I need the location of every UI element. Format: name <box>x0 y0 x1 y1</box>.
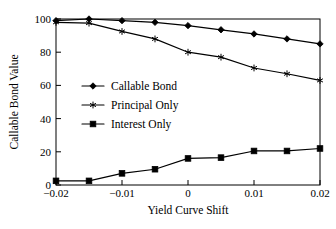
y-tick-label-60: 60 <box>40 79 52 91</box>
x-tick-label-001: 0.01 <box>244 187 263 199</box>
chart-figure: 0 20 40 60 80 100 −0.02 −0.01 0 0.01 0.0… <box>0 0 336 229</box>
legend-label: Principal Only <box>111 99 179 112</box>
legend-label: Callable Bond <box>111 80 177 92</box>
data-point <box>152 19 158 25</box>
y-tick-label-20: 20 <box>40 146 52 158</box>
x-axis-tick-labels: −0.02 −0.01 0 0.01 0.02 <box>43 187 329 199</box>
y-tick-label-100: 100 <box>35 13 52 25</box>
series-layer <box>53 16 323 184</box>
data-point <box>284 148 290 154</box>
data-point <box>119 171 125 177</box>
series-callable-bond <box>53 16 323 47</box>
legend-marker <box>90 83 96 89</box>
x-tick-label-zero: 0 <box>185 187 191 199</box>
x-tick-label-neg001: −0.01 <box>109 187 134 199</box>
data-point <box>185 156 191 162</box>
legend-label: Interest Only <box>111 118 172 131</box>
legend-marker <box>90 121 96 127</box>
data-point <box>218 155 224 161</box>
data-point <box>119 17 125 23</box>
y-axis-tick-labels: 0 20 40 60 80 100 <box>35 13 52 191</box>
y-axis-title: Callable Bond Value <box>8 55 20 150</box>
series-interest-only <box>53 146 323 184</box>
data-point <box>284 36 290 42</box>
data-point <box>317 41 323 47</box>
data-point <box>53 178 59 184</box>
data-point <box>152 166 158 172</box>
data-point <box>86 178 92 184</box>
data-point <box>251 31 257 37</box>
y-axis-ticks <box>56 19 61 185</box>
x-axis-title: Yield Curve Shift <box>147 204 229 216</box>
y-tick-label-80: 80 <box>40 46 52 58</box>
legend-item-callable-bond[interactable]: Callable Bond <box>82 80 177 92</box>
data-point <box>317 146 323 152</box>
line-chart: 0 20 40 60 80 100 −0.02 −0.01 0 0.01 0.0… <box>0 0 336 229</box>
data-point <box>185 22 191 28</box>
legend-item-interest-only[interactable]: Interest Only <box>82 118 172 131</box>
x-tick-label-neg002: −0.02 <box>43 187 68 199</box>
data-point <box>218 27 224 33</box>
chart-legend: Callable BondPrincipal OnlyInterest Only <box>82 80 179 131</box>
y-tick-label-40: 40 <box>40 113 52 125</box>
data-point <box>251 148 257 154</box>
series-line <box>56 148 320 180</box>
x-tick-label-002: 0.02 <box>310 187 329 199</box>
x-axis-ticks <box>56 180 320 185</box>
legend-item-principal-only[interactable]: Principal Only <box>82 99 179 112</box>
